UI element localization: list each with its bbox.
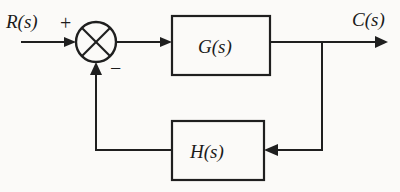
forward-block-input-arrowhead [160, 37, 172, 47]
output-signal-wire [270, 36, 388, 48]
feedback-path-right [264, 42, 322, 156]
block-diagram-canvas: R(s) C(s) G(s) H(s) + − [0, 0, 400, 192]
positive-sign-label: + [60, 12, 71, 34]
input-arrowhead [64, 37, 76, 47]
feedback-block-label: H(s) [189, 141, 224, 163]
summing-junction-feedback-arrowhead [90, 62, 102, 75]
feedback-path-left [90, 62, 172, 150]
output-arrowhead [375, 36, 388, 48]
forward-block-label: G(s) [198, 36, 232, 58]
input-signal-label: R(s) [5, 11, 38, 33]
block-diagram: R(s) C(s) G(s) H(s) + − [0, 0, 400, 192]
output-signal-label: C(s) [352, 9, 385, 31]
summing-junction [76, 22, 116, 62]
error-signal-wire [116, 37, 172, 47]
feedback-block-input-arrowhead [264, 144, 278, 156]
input-signal-wire [22, 37, 76, 47]
negative-sign-label: − [110, 57, 121, 79]
